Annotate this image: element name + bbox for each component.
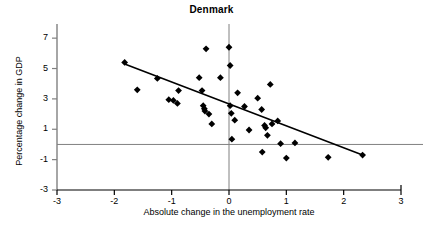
data-point-marker bbox=[259, 149, 266, 156]
data-point-marker bbox=[283, 155, 290, 162]
x-tick-label: 1 bbox=[276, 196, 296, 206]
data-point-marker bbox=[246, 127, 253, 134]
data-point-marker bbox=[196, 74, 203, 81]
data-point-marker bbox=[134, 86, 141, 93]
x-tick-label: 0 bbox=[219, 196, 239, 206]
data-point-marker bbox=[292, 140, 299, 147]
x-tick-label: -3 bbox=[47, 196, 67, 206]
scatter-plot-canvas bbox=[0, 0, 423, 228]
data-point-marker bbox=[234, 89, 241, 96]
data-point-marker bbox=[258, 106, 265, 113]
trend-line-segment bbox=[125, 64, 363, 155]
x-tick-label: 2 bbox=[334, 196, 354, 206]
axis-ticks bbox=[52, 38, 401, 195]
y-tick-label: 3 bbox=[26, 93, 48, 103]
data-point-marker bbox=[226, 44, 233, 51]
data-point-marker bbox=[277, 140, 284, 147]
x-tick-label: -2 bbox=[104, 196, 124, 206]
data-points bbox=[121, 44, 366, 162]
data-point-marker bbox=[264, 132, 271, 139]
y-tick-label: 5 bbox=[26, 63, 48, 73]
regression-line bbox=[125, 64, 363, 155]
data-point-marker bbox=[208, 121, 215, 128]
data-point-marker bbox=[203, 45, 210, 52]
data-point-marker bbox=[254, 95, 261, 102]
chart-figure: Denmark Percentage change in GDP Absolut… bbox=[0, 0, 423, 228]
data-point-marker bbox=[227, 62, 234, 69]
data-point-marker bbox=[217, 74, 224, 81]
reference-lines bbox=[57, 24, 423, 190]
data-point-marker bbox=[231, 117, 238, 124]
data-point-marker bbox=[359, 152, 366, 159]
y-tick-label: -1 bbox=[26, 154, 48, 164]
x-tick-label: 3 bbox=[391, 196, 411, 206]
data-point-marker bbox=[175, 87, 182, 94]
y-tick-label: -3 bbox=[26, 184, 48, 194]
data-point-marker bbox=[325, 154, 332, 161]
data-point-marker bbox=[267, 81, 274, 88]
y-tick-label: 1 bbox=[26, 123, 48, 133]
y-tick-label: 7 bbox=[26, 32, 48, 42]
x-tick-label: -1 bbox=[162, 196, 182, 206]
